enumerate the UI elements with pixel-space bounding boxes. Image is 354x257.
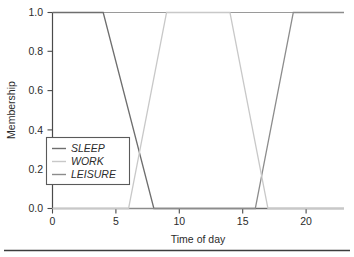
y-tick-label-0.4: 0.4 [28,124,43,136]
legend-label-work: WORK [71,155,105,167]
x-tick-label-5: 5 [113,215,119,227]
x-axis-title: Time of day [171,233,226,245]
legend-label-leisure: LEISURE [71,168,117,180]
x-tick-label-0: 0 [50,215,56,227]
x-tick-label-20: 20 [300,215,312,227]
x-tick-label-15: 15 [237,215,249,227]
chart-canvas: 0 5 10 15 20 0.0 0.2 0.4 0.6 0.8 1.0 Tim… [0,0,354,257]
legend[interactable]: SLEEP WORK LEISURE [47,138,130,185]
legend-label-sleep: SLEEP [71,142,105,154]
y-axis-title: Membership [5,81,17,139]
figure: 0 5 10 15 20 0.0 0.2 0.4 0.6 0.8 1.0 Tim… [0,0,354,257]
y-tick-label-0.8: 0.8 [28,45,43,57]
y-tick-label-0.0: 0.0 [28,202,43,214]
y-tick-label-1.0: 1.0 [28,6,43,18]
y-tick-label-0.6: 0.6 [28,84,43,96]
y-tick-label-0.2: 0.2 [28,163,43,175]
x-tick-label-10: 10 [173,215,185,227]
